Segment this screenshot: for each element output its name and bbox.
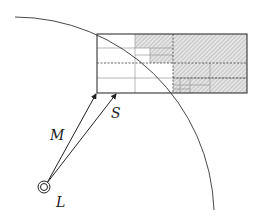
diagram-canvas [0, 0, 261, 222]
hatched-region [135, 34, 247, 93]
label-M: M [50, 128, 64, 142]
label-L: L [56, 195, 65, 209]
source-icon [38, 181, 50, 193]
label-S: S [111, 106, 121, 120]
